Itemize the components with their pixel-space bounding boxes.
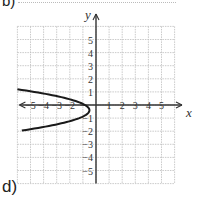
y-tick-label: −2 [82, 126, 93, 137]
y-tick-label: 1 [88, 87, 93, 98]
y-tick-label: 4 [88, 48, 93, 59]
x-tick-label: −3 [51, 100, 62, 111]
x-axis-label: x [185, 105, 192, 120]
y-tick-label: −4 [82, 152, 93, 163]
x-tick-label: 4 [146, 100, 151, 111]
x-tick-label: −4 [38, 100, 49, 111]
y-tick-label: −5 [82, 166, 93, 177]
coordinate-plane-chart: −5−4−3−2−1234554321−1−2−3−4−5 x y [0, 0, 205, 200]
x-tick-label: 5 [159, 100, 164, 111]
x-tick-label: −2 [64, 100, 75, 111]
y-tick-label: −3 [82, 139, 93, 150]
y-axis-label: y [83, 7, 91, 22]
x-tick-label: 3 [133, 100, 138, 111]
x-tick-label: −5 [25, 100, 36, 111]
x-tick-label: 1 [107, 100, 112, 111]
y-tick-label: 2 [88, 74, 93, 85]
y-tick-label: 3 [88, 61, 93, 72]
x-tick-label: 2 [120, 100, 125, 111]
y-tick-label: 5 [88, 35, 93, 46]
